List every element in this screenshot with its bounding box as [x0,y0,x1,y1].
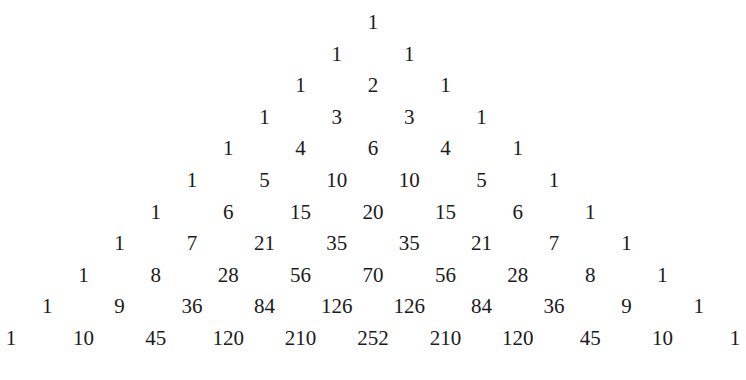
triangle-cell: 15 [271,197,331,227]
triangle-cell: 120 [198,323,258,353]
pascals-triangle: 1111211331146411510105116152015611721353… [0,0,746,380]
triangle-cell: 56 [415,260,475,290]
triangle-cell: 1 [415,70,475,100]
triangle-row-5: 15101051 [0,165,746,195]
triangle-cell: 1 [452,102,512,132]
triangle-cell: 210 [271,323,331,353]
triangle-cell: 7 [524,228,584,258]
triangle-cell: 70 [343,260,403,290]
triangle-cell: 6 [198,197,258,227]
triangle-cell: 1 [560,197,620,227]
triangle-cell: 9 [90,291,150,321]
triangle-cell: 10 [53,323,113,353]
triangle-cell: 15 [415,197,475,227]
triangle-cell: 1 [53,260,113,290]
triangle-row-6: 1615201561 [0,197,746,227]
triangle-cell: 45 [560,323,620,353]
triangle-cell: 252 [343,323,403,353]
triangle-cell: 4 [415,133,475,163]
triangle-cell: 35 [379,228,439,258]
triangle-cell: 1 [234,102,294,132]
triangle-cell: 1 [307,39,367,69]
triangle-cell: 126 [307,291,367,321]
triangle-row-2: 121 [0,70,746,100]
triangle-cell: 35 [307,228,367,258]
triangle-cell: 10 [633,323,693,353]
triangle-cell: 1 [17,291,77,321]
triangle-cell: 45 [126,323,186,353]
triangle-cell: 1 [379,39,439,69]
triangle-cell: 2 [343,70,403,100]
triangle-cell: 8 [560,260,620,290]
triangle-cell: 21 [452,228,512,258]
triangle-cell: 4 [271,133,331,163]
triangle-cell: 1 [90,228,150,258]
triangle-cell: 7 [162,228,222,258]
triangle-cell: 1 [162,165,222,195]
triangle-cell: 1 [488,133,548,163]
triangle-cell: 20 [343,197,403,227]
triangle-cell: 1 [271,70,331,100]
triangle-cell: 1 [596,228,656,258]
triangle-cell: 5 [452,165,512,195]
triangle-cell: 120 [488,323,548,353]
triangle-row-10: 1104512021025221012045101 [0,323,746,353]
triangle-cell: 10 [307,165,367,195]
triangle-cell: 1 [633,260,693,290]
triangle-row-4: 14641 [0,133,746,163]
triangle-cell: 84 [452,291,512,321]
triangle-cell: 1 [524,165,584,195]
triangle-cell: 3 [307,102,367,132]
triangle-cell: 1 [705,323,746,353]
triangle-cell: 36 [162,291,222,321]
triangle-cell: 8 [126,260,186,290]
triangle-row-8: 18285670562881 [0,260,746,290]
triangle-cell: 1 [343,7,403,37]
triangle-row-0: 1 [0,7,746,37]
triangle-cell: 9 [596,291,656,321]
triangle-cell: 1 [669,291,729,321]
triangle-cell: 5 [234,165,294,195]
triangle-cell: 21 [234,228,294,258]
triangle-cell: 84 [234,291,294,321]
triangle-cell: 10 [379,165,439,195]
triangle-row-7: 172135352171 [0,228,746,258]
triangle-row-1: 11 [0,39,746,69]
triangle-cell: 6 [488,197,548,227]
triangle-cell: 28 [488,260,548,290]
triangle-cell: 3 [379,102,439,132]
triangle-cell: 1 [0,323,41,353]
triangle-cell: 126 [379,291,439,321]
triangle-row-9: 193684126126843691 [0,291,746,321]
triangle-row-3: 1331 [0,102,746,132]
triangle-cell: 210 [415,323,475,353]
triangle-cell: 56 [271,260,331,290]
triangle-cell: 1 [198,133,258,163]
triangle-cell: 28 [198,260,258,290]
triangle-cell: 6 [343,133,403,163]
triangle-cell: 36 [524,291,584,321]
triangle-cell: 1 [126,197,186,227]
